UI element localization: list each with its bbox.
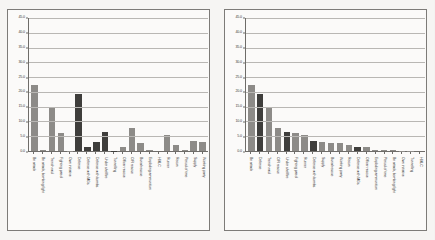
bar-cell[interactable] (265, 18, 274, 151)
bar-cell[interactable] (39, 18, 48, 151)
bar-cell[interactable] (344, 18, 353, 151)
bar-chart-left: 0.05.010.015.020.025.030.035.040.045.0 B… (4, 6, 213, 236)
bar[interactable] (337, 143, 343, 151)
gridline (29, 62, 208, 63)
bar-cell[interactable] (110, 18, 119, 151)
bar-cell[interactable] (397, 18, 406, 151)
x-axis-label-cell: O/R rescue (127, 156, 136, 233)
x-axis-label: Working party (338, 157, 342, 178)
x-axis-tick-mark (122, 152, 123, 154)
y-axis-right: 0.05.010.015.020.025.030.035.040.045.0 (226, 18, 245, 152)
bar[interactable] (372, 150, 378, 151)
bar-cell[interactable] (389, 18, 398, 151)
bar-cell[interactable] (65, 18, 74, 151)
y-axis-tick-label: 40.0 (18, 31, 25, 35)
x-axis-tick-mark (175, 152, 176, 154)
bar[interactable] (363, 147, 369, 151)
x-axis-label-cell: Exploding ammunition (371, 156, 380, 233)
y-axis-tick-label: 0.0 (20, 150, 25, 154)
bar-cell[interactable] (256, 18, 265, 151)
bar[interactable] (199, 142, 205, 151)
bar-cell[interactable] (406, 18, 415, 151)
x-axis-label-cell: Defence with MGs (353, 156, 362, 233)
bar-cell[interactable] (154, 18, 163, 151)
bar-cell[interactable] (127, 18, 136, 151)
bar-cell[interactable] (371, 18, 380, 151)
bar-cell[interactable] (198, 18, 207, 151)
x-axis-tick-mark (366, 152, 367, 154)
bar-cell[interactable] (274, 18, 283, 151)
bar[interactable] (164, 135, 170, 151)
bar[interactable] (190, 141, 196, 151)
x-axis-tick-mark (410, 152, 411, 154)
bar-cell[interactable] (318, 18, 327, 151)
bar-cell[interactable] (415, 18, 424, 151)
bar[interactable] (182, 150, 188, 151)
bar-cell[interactable] (145, 18, 154, 151)
x-axis-label-cell: Trench raid (47, 156, 56, 233)
y-axis-tick-label: 25.0 (235, 76, 242, 80)
bar[interactable] (146, 150, 152, 151)
bar-cell[interactable] (180, 18, 189, 151)
y-axis-tick-label: 35.0 (235, 46, 242, 50)
bar-cell[interactable] (291, 18, 300, 151)
x-axis-label: Defence with MGs (85, 157, 89, 184)
bar[interactable] (275, 128, 281, 151)
bar[interactable] (354, 147, 360, 151)
bar-cell[interactable] (92, 18, 101, 151)
bar-cell[interactable] (327, 18, 336, 151)
bar-cell[interactable] (353, 18, 362, 151)
bar[interactable] (301, 135, 307, 151)
bar-cell[interactable] (83, 18, 92, 151)
bar-cell[interactable] (136, 18, 145, 151)
bar[interactable] (390, 150, 396, 151)
bar[interactable] (120, 147, 126, 151)
bar[interactable] (173, 145, 179, 151)
x-axis-tick-mark (348, 152, 349, 154)
bar-cell[interactable] (247, 18, 256, 151)
bar[interactable] (40, 150, 46, 151)
bar[interactable] (381, 150, 387, 151)
bar-cell[interactable] (362, 18, 371, 151)
bar[interactable] (284, 132, 290, 151)
y-axis-tick-label: 45.0 (235, 16, 242, 20)
x-axis-tick-mark (419, 152, 420, 154)
bar-cell[interactable] (30, 18, 39, 151)
y-axis-tick-label: 5.0 (20, 135, 25, 139)
x-axis-label: Own initiative (400, 157, 404, 177)
bar-cell[interactable] (48, 18, 57, 151)
x-axis-label: Bn attack (32, 157, 36, 171)
bar[interactable] (248, 85, 254, 151)
x-axis-label: Defence with bombs (311, 157, 315, 187)
gridline (246, 48, 425, 49)
bar[interactable] (328, 143, 334, 151)
bar-cell[interactable] (380, 18, 389, 151)
x-axis-tick-mark (77, 152, 78, 154)
bar-cell[interactable] (282, 18, 291, 151)
bar[interactable] (137, 143, 143, 151)
bar[interactable] (49, 108, 55, 151)
x-axis-label-cell: Officer rescue (118, 156, 127, 233)
bar[interactable] (93, 142, 99, 151)
bar[interactable] (102, 132, 108, 151)
bar[interactable] (129, 128, 135, 151)
bar-cell[interactable] (74, 18, 83, 151)
bar[interactable] (84, 147, 90, 151)
bar-cell[interactable] (335, 18, 344, 151)
bar[interactable] (31, 85, 37, 151)
bar-cell[interactable] (118, 18, 127, 151)
bar-cell[interactable] (172, 18, 181, 151)
bar-cell[interactable] (189, 18, 198, 151)
bar[interactable] (319, 142, 325, 151)
bar-cell[interactable] (101, 18, 110, 151)
bar[interactable] (266, 108, 272, 151)
bar-cell[interactable] (309, 18, 318, 151)
bar-cell[interactable] (57, 18, 66, 151)
x-axis-label-cell: Bn attack (29, 156, 38, 233)
bar-cell[interactable] (163, 18, 172, 151)
bar[interactable] (310, 141, 316, 151)
bar-cell[interactable] (300, 18, 309, 151)
bar[interactable] (346, 145, 352, 151)
x-axis-tick-mark (140, 152, 141, 154)
x-axis-label-cell: Supply (189, 156, 198, 233)
